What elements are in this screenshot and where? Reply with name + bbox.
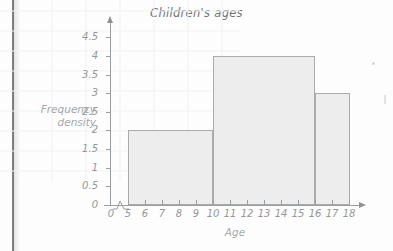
x-tick [179, 200, 180, 205]
y-tick [106, 112, 111, 113]
x-tick [298, 200, 299, 205]
y-axis-title-line1: Frequency [18, 103, 96, 116]
y-tick [106, 37, 111, 38]
y-tick [106, 130, 111, 131]
x-tick [213, 200, 214, 205]
y-tick-label: 1.5 [58, 143, 98, 154]
x-axis-line [104, 205, 360, 206]
x-tick [315, 200, 316, 205]
y-tick [106, 186, 111, 187]
x-tick-label: 18 [337, 208, 361, 219]
y-axis-title: Frequency density [18, 103, 96, 129]
chart-page: Children's ages [0, 0, 393, 251]
x-tick [128, 200, 129, 205]
x-axis-title: Age [195, 226, 275, 238]
y-tick-label: 3.5 [58, 69, 98, 80]
y-tick-label: 4.5 [58, 31, 98, 42]
x-tick [349, 200, 350, 205]
scan-artifact-dot [372, 62, 375, 65]
y-tick-label: 3 [58, 87, 98, 98]
x-tick [281, 200, 282, 205]
x-tick [145, 200, 146, 205]
y-tick [106, 168, 111, 169]
y-axis-line [110, 22, 111, 206]
y-tick [106, 56, 111, 57]
x-tick [247, 200, 248, 205]
y-tick-label: 4 [58, 50, 98, 61]
y-axis-arrow-icon [107, 16, 113, 23]
y-tick [106, 93, 111, 94]
y-tick [106, 75, 111, 76]
y-tick [106, 149, 111, 150]
y-tick-label: 1 [58, 162, 98, 173]
x-tick [196, 200, 197, 205]
histogram-bar-16-18 [315, 93, 350, 205]
y-tick [106, 205, 111, 206]
x-tick [162, 200, 163, 205]
x-tick [264, 200, 265, 205]
scan-artifact-mark [384, 95, 386, 104]
x-tick [230, 200, 231, 205]
histogram-bar-5-10 [128, 130, 213, 205]
histogram-bar-10-16 [213, 56, 315, 205]
x-tick [332, 200, 333, 205]
y-axis-title-line2: density [18, 116, 96, 129]
y-tick-label: 0.5 [58, 180, 98, 191]
y-tick-label: 0 [58, 199, 98, 210]
